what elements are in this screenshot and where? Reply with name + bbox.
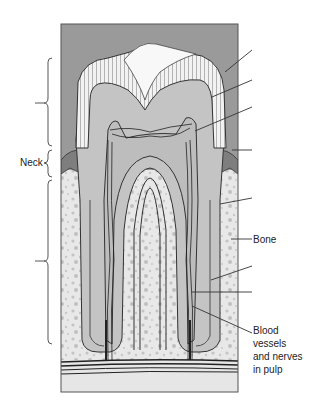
blood-vessels-line-1: Blood: [253, 324, 309, 337]
crown-bracket: [44, 58, 52, 146]
frame: [61, 24, 238, 392]
blood-vessels-line-2: vessels: [253, 337, 309, 350]
brackets: [35, 58, 52, 344]
neck-bracket: [44, 150, 52, 177]
root-bracket: [44, 180, 52, 344]
blood-vessels-label: Blood vessels and nerves in pulp: [253, 324, 309, 376]
neck-label: Neck: [20, 156, 43, 169]
blood-vessels-line-3: and nerves: [253, 350, 309, 363]
blood-vessels-line-4: in pulp: [253, 363, 309, 376]
bone-label: Bone: [253, 233, 276, 246]
inner-arch-2: [140, 188, 160, 350]
